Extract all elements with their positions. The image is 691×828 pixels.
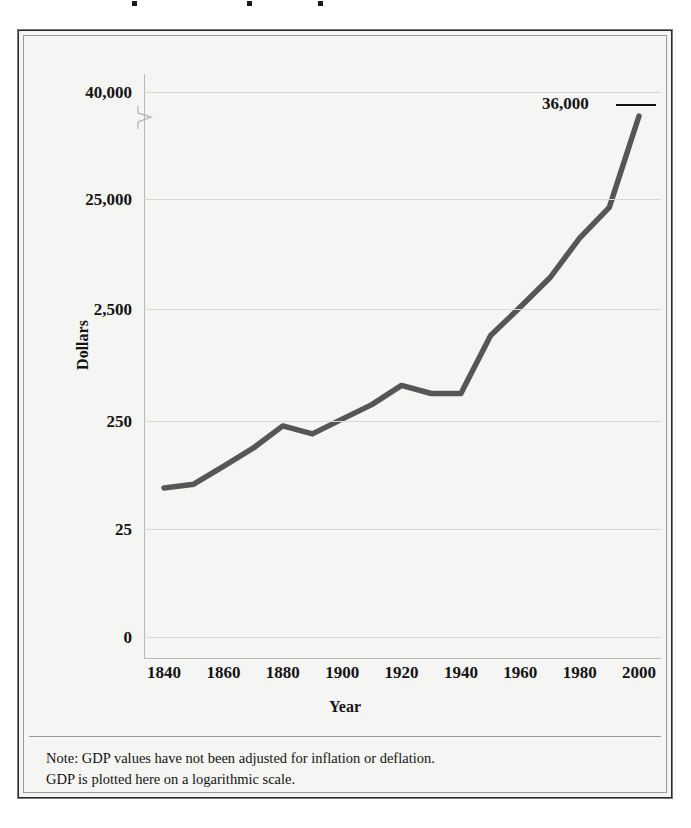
y-gridline <box>144 309 661 310</box>
title-remnant-dot <box>132 1 137 6</box>
y-tick-label: 25 <box>115 521 132 538</box>
y-axis-tick-labels: 40,00025,0002,500250250 <box>24 74 132 659</box>
y-tick-label: 250 <box>107 413 133 430</box>
note-separator <box>29 736 661 737</box>
plot-area <box>144 74 661 659</box>
x-tick-label: 1840 <box>147 664 181 681</box>
y-tick-label: 25,000 <box>85 191 132 208</box>
x-tick-label: 1980 <box>563 664 597 681</box>
figure-inner-border: Dollars 40,00025,0002,500250250 18401860… <box>23 35 667 793</box>
gdp-line-series <box>144 74 661 659</box>
gdp-line-path <box>164 116 639 488</box>
y-tick-label: 2,500 <box>94 301 132 318</box>
figure-frame: Dollars 40,00025,0002,500250250 18401860… <box>18 30 672 798</box>
y-gridline <box>144 199 661 200</box>
x-axis-tick-labels: 184018601880190019201940196019802000 <box>144 664 661 690</box>
y-tick-label: 0 <box>124 629 133 646</box>
cropped-title-remnant <box>0 0 691 14</box>
x-tick-label: 1860 <box>206 664 240 681</box>
y-tick-label: 40,000 <box>85 84 132 101</box>
x-tick-label: 1880 <box>266 664 300 681</box>
y-gridline <box>144 529 661 530</box>
endpoint-leader-line <box>616 104 656 106</box>
x-tick-label: 1940 <box>444 664 478 681</box>
figure-note-line: Note: GDP values have not been adjusted … <box>46 748 626 769</box>
figure-note: Note: GDP values have not been adjusted … <box>46 748 626 790</box>
y-gridline <box>144 637 661 638</box>
figure-note-line: GDP is plotted here on a logarithmic sca… <box>46 769 626 790</box>
title-remnant-dot <box>318 1 323 6</box>
x-tick-label: 1920 <box>385 664 419 681</box>
x-tick-label: 2000 <box>622 664 656 681</box>
title-remnant-dot <box>247 1 252 6</box>
x-axis-title: Year <box>24 698 666 716</box>
y-gridline <box>144 421 661 422</box>
endpoint-value-label: 36,000 <box>542 94 589 114</box>
x-tick-label: 1960 <box>503 664 537 681</box>
x-tick-label: 1900 <box>325 664 359 681</box>
y-gridline <box>144 92 661 93</box>
